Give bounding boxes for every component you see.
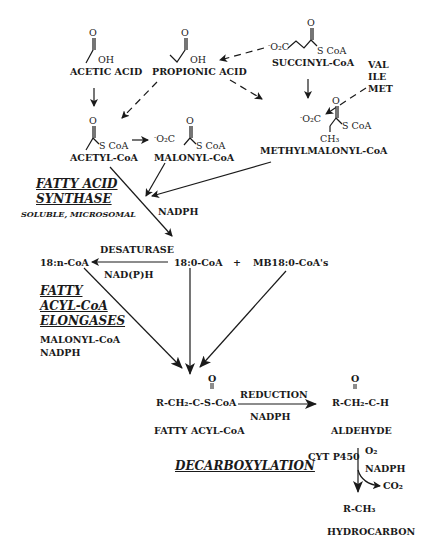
acetic-acid-oh: OH: [98, 55, 114, 65]
malonyl-scoa: S CoA: [196, 141, 225, 151]
methylmalonyl-o2c: -O₂C: [300, 114, 321, 124]
enzyme-elongases-line2: ACYL-CoA: [40, 300, 108, 312]
methylmalonyl-ch3: CH₃: [320, 134, 339, 144]
product-co2: CO₂: [383, 481, 403, 491]
node-malonyl-coa: MALONYL-CoA: [154, 153, 234, 163]
cofactor-elongase-nadph: NADPH: [40, 348, 80, 358]
succinyl-o2c: -O₂C: [268, 42, 289, 52]
hydrocarbon-formula: R-CH₃: [343, 504, 376, 514]
methylmalonyl-scoa: S CoA: [342, 121, 371, 131]
enzyme-fatty-acid-synthase-line2: SYNTHASE: [36, 193, 112, 205]
node-methylmalonyl-coa: METHYLMALONYL-CoA: [260, 146, 387, 156]
enzyme-cyt-p450: CYT P450: [308, 452, 360, 462]
malonyl-o2c: -O₂C: [154, 134, 175, 144]
enzyme-desaturase: DESATURASE: [100, 245, 174, 255]
plus-sign: +: [233, 258, 241, 268]
succinyl-carbonyl-o: O: [307, 18, 315, 28]
process-decarboxylation: DECARBOXYLATION: [175, 460, 315, 472]
fas-types-label: SOLUBLE, MICROSOMAL: [21, 210, 136, 218]
node-acetic-acid: ACETIC ACID: [70, 67, 142, 77]
malonyl-carbonyl-o: O: [186, 116, 194, 126]
enzyme-fatty-acid-synthase-line1: FATTY ACID: [36, 178, 118, 190]
cofactor-elongase-malonyl-coa: MALONYL-CoA: [40, 335, 120, 345]
aldehyde-carbonyl-o: O: [351, 374, 359, 384]
cofactor-nadph-fas: NADPH: [158, 207, 198, 217]
cofactor-nadph-desaturase: NAD(P)H: [104, 270, 153, 280]
enzyme-elongases-line3: ELONGASES: [40, 315, 125, 327]
node-succinyl-coa: SUCCINYL-CoA: [272, 58, 354, 68]
pathway-arrows: [0, 0, 431, 558]
propionic-acid-carbonyl-o: O: [181, 28, 189, 38]
node-aldehyde: ALDEHYDE: [331, 426, 392, 436]
node-18-0-coa: 18:0-CoA: [174, 258, 223, 268]
acetic-acid-bonds: [86, 38, 93, 63]
cofactor-nadph-reduction: NADPH: [250, 412, 290, 422]
node-hydrocarbon: HYDROCARBON: [327, 527, 415, 537]
node-acetyl-coa: ACETYL-CoA: [70, 153, 138, 163]
succinyl-scoa: S CoA: [317, 46, 346, 56]
node-propionic-acid: PROPIONIC ACID: [152, 67, 247, 77]
process-reduction: REDUCTION: [240, 390, 308, 400]
fatty-acyl-coa-formula: R-CH₂-C-S-CoA: [156, 398, 236, 408]
enzyme-elongases-line1: FATTY: [40, 285, 82, 297]
node-mb18-0-coas: MB18:0-CoA's: [253, 258, 328, 268]
node-met: MET: [368, 84, 393, 94]
cofactor-o2: O₂: [365, 446, 377, 456]
fatty-acyl-carbonyl-o: O: [208, 374, 216, 384]
node-ile: ILE: [368, 72, 386, 82]
acetyl-scoa: S CoA: [99, 141, 128, 151]
propionic-acid-oh: OH: [190, 55, 206, 65]
acetyl-carbonyl-o: O: [89, 116, 97, 126]
cofactor-nadph-decarb: NADPH: [365, 464, 405, 474]
acetic-acid-carbonyl-o: O: [89, 28, 97, 38]
node-fatty-acyl-coa: FATTY ACYL-CoA: [154, 426, 245, 436]
node-18n-coa: 18:n-CoA: [40, 258, 89, 268]
aldehyde-formula: R-CH₂-C-H: [332, 398, 389, 408]
methylmalonyl-carbonyl-o: O: [332, 96, 340, 106]
node-val: VAL: [368, 60, 389, 70]
